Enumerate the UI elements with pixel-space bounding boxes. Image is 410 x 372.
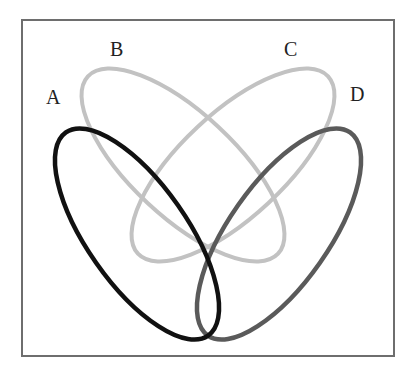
label-set-d: D (350, 83, 364, 105)
label-set-c: C (284, 38, 297, 60)
ellipse-set-a (25, 104, 249, 365)
ellipse-set-d (167, 104, 391, 365)
venn-diagram: A B C D (0, 0, 410, 372)
label-set-a: A (46, 86, 61, 108)
venn-ellipses (25, 38, 391, 364)
label-set-b: B (110, 38, 123, 60)
diagram-frame (22, 20, 394, 356)
